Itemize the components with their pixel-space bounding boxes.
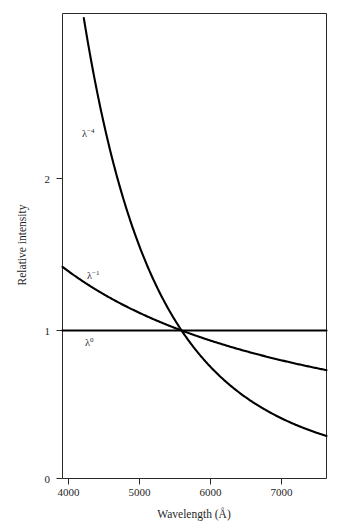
x-tick-label-4000: 4000	[58, 486, 81, 498]
x-tick-label-7000: 7000	[271, 486, 294, 498]
x-tick-label-5000: 5000	[129, 486, 152, 498]
x-tick-labels: 4000 5000 6000 7000	[58, 486, 294, 498]
curve-lambda-minus-4	[84, 18, 327, 436]
y-axis-ticks	[57, 179, 63, 479]
wavelength-intensity-chart: 4000 5000 6000 7000 2 1 0 λ−4 λ−1	[0, 0, 342, 528]
y-tick-label-2: 2	[45, 173, 51, 185]
x-axis-title: Wavelength (Å)	[157, 507, 231, 521]
x-tick-label-6000: 6000	[200, 486, 223, 498]
curve-label-lambda-minus-4: λ−4	[82, 127, 95, 139]
plot-frame	[63, 14, 327, 479]
curve-annotations: λ−4 λ−1 λ0	[82, 127, 100, 348]
curve-label-lambda-minus-1: λ−1	[87, 269, 100, 281]
x-axis-ticks	[69, 479, 282, 485]
y-tick-labels: 2 1 0	[45, 173, 51, 485]
curves-group	[63, 18, 327, 436]
y-tick-label-1: 1	[45, 325, 51, 337]
y-tick-label-0: 0	[45, 473, 51, 485]
y-axis-title: Relative intensity	[16, 204, 29, 285]
curve-lambda-minus-1	[63, 267, 327, 370]
curve-label-lambda-minus-1-exponent: −1	[92, 269, 100, 277]
curve-label-lambda-minus-4-exponent: −4	[87, 127, 95, 135]
curve-label-lambda-0: λ0	[85, 336, 94, 348]
figure-container: 4000 5000 6000 7000 2 1 0 λ−4 λ−1	[0, 0, 342, 528]
curve-label-lambda-0-exponent: 0	[90, 336, 94, 344]
